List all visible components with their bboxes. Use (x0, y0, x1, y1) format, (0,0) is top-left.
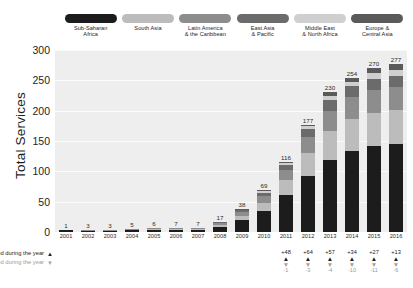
annotation-column (253, 249, 275, 274)
bar-segment[interactable] (367, 146, 381, 232)
bar-column[interactable]: 1 (55, 50, 77, 232)
y-axis-tick-label: 200 (32, 105, 50, 117)
bar-segment[interactable] (367, 113, 381, 146)
bar-column[interactable]: 277 (385, 50, 407, 232)
legend-item: Sub-Saharan Africa (62, 14, 119, 38)
bar-segment[interactable] (257, 211, 271, 232)
bar-value-label: 5 (130, 221, 134, 228)
bar-segment[interactable] (301, 176, 315, 232)
bar-column[interactable]: 5 (121, 50, 143, 232)
bar-segment[interactable] (345, 86, 359, 97)
annotation-column (231, 249, 253, 274)
annotation-legend-launched-label: Services launched during the year (0, 249, 44, 258)
stacked-bar[interactable] (235, 209, 249, 232)
bar-column[interactable]: 17 (209, 50, 231, 232)
bar-column[interactable]: 230 (319, 50, 341, 232)
stacked-bar[interactable] (191, 228, 205, 232)
annotation-legend-closed-label: Services closed or merged during the yea… (0, 258, 44, 267)
bar-segment[interactable] (169, 230, 183, 232)
x-axis-tick-label: 2003 (99, 233, 121, 245)
services-closed-value: -10 (348, 267, 356, 274)
bar-segment[interactable] (147, 230, 161, 232)
x-axis-tick-label: 2012 (297, 233, 319, 245)
bar-segment[interactable] (279, 195, 293, 232)
stacked-bar[interactable] (213, 222, 227, 232)
stacked-bar[interactable] (169, 228, 183, 232)
x-axis-tick-label: 2005 (143, 233, 165, 245)
bar-segment[interactable] (323, 100, 337, 110)
stacked-bar[interactable] (323, 92, 337, 232)
stacked-bar[interactable] (125, 229, 139, 232)
y-axis-title: Total Services (13, 71, 28, 201)
bar-value-label: 7 (196, 220, 200, 227)
stacked-bar[interactable] (345, 78, 359, 232)
annotation-markers: ▲▼ (283, 256, 289, 267)
bar-column[interactable]: 38 (231, 50, 253, 232)
x-axis-tick-labels: 2001200220032004200520062007200820092010… (55, 233, 407, 245)
bar-segment[interactable] (323, 111, 337, 132)
bar-value-label: 7 (174, 220, 178, 227)
bar-segment[interactable] (345, 151, 359, 232)
bar-segment[interactable] (389, 76, 403, 88)
bar-segment[interactable] (367, 79, 381, 91)
bar-segment[interactable] (213, 227, 227, 232)
bar-column[interactable]: 7 (187, 50, 209, 232)
bar-segment[interactable] (191, 230, 205, 232)
bar-column[interactable]: 116 (275, 50, 297, 232)
bar-segment[interactable] (389, 110, 403, 144)
stacked-bar[interactable] (301, 125, 315, 232)
stacked-bar[interactable] (103, 230, 117, 232)
bar-segment[interactable] (301, 129, 315, 136)
legend-swatch (179, 14, 231, 23)
bar-column[interactable]: 177 (297, 50, 319, 232)
x-axis-tick-label: 2016 (385, 233, 407, 245)
x-axis-tick-label: 2002 (77, 233, 99, 245)
stacked-bar[interactable] (81, 230, 95, 232)
bar-segment[interactable] (345, 119, 359, 151)
annotation-markers: ▲▼ (371, 256, 377, 267)
stacked-bar[interactable] (389, 64, 403, 232)
bar-segment[interactable] (389, 144, 403, 232)
bar-segment[interactable] (389, 87, 403, 110)
bar-segment[interactable] (323, 160, 337, 232)
stacked-bar-chart: Sub-Saharan AfricaSouth AsiaLatin Americ… (0, 0, 413, 288)
bar-segment[interactable] (103, 231, 117, 232)
bar-column[interactable]: 69 (253, 50, 275, 232)
stacked-bar[interactable] (367, 68, 381, 232)
bar-segment[interactable] (257, 196, 271, 203)
bar-segment[interactable] (323, 131, 337, 160)
annotation-legend-closed: Services closed or merged during the yea… (0, 258, 53, 267)
legend-label: Middle East & North Africa (302, 25, 337, 38)
x-axis-tick-label: 2014 (341, 233, 363, 245)
bar-segment[interactable] (301, 137, 315, 153)
services-closed-value: -4 (328, 267, 333, 274)
bar-segment[interactable] (367, 90, 381, 112)
bar-segment[interactable] (125, 230, 139, 232)
stacked-bar[interactable] (59, 230, 73, 232)
bar-column[interactable]: 3 (99, 50, 121, 232)
bar-column[interactable]: 3 (77, 50, 99, 232)
bar-column[interactable]: 270 (363, 50, 385, 232)
annotation-markers: ▲▼ (327, 256, 333, 267)
stacked-bar[interactable] (147, 228, 161, 232)
annotation-column (165, 249, 187, 274)
annotation-markers: ▲▼ (349, 256, 355, 267)
bar-segment[interactable] (235, 220, 249, 232)
legend-label: Latin America & the Caribbean (185, 25, 226, 38)
bar-column[interactable]: 7 (165, 50, 187, 232)
bar-segment[interactable] (81, 231, 95, 232)
bar-column[interactable]: 6 (143, 50, 165, 232)
bar-segment[interactable] (345, 97, 359, 119)
bar-segment[interactable] (279, 180, 293, 195)
bar-value-label: 116 (281, 154, 291, 161)
legend-item: East Asia & Pacific (234, 14, 291, 38)
stacked-bar[interactable] (279, 162, 293, 232)
bar-segment[interactable] (301, 153, 315, 175)
bar-segment[interactable] (279, 170, 293, 180)
x-axis-tick-label: 2008 (209, 233, 231, 245)
bar-segment[interactable] (257, 203, 271, 211)
bar-column[interactable]: 254 (341, 50, 363, 232)
stacked-bar[interactable] (257, 190, 271, 232)
annotation-column (99, 249, 121, 274)
bar-segment[interactable] (59, 230, 73, 232)
